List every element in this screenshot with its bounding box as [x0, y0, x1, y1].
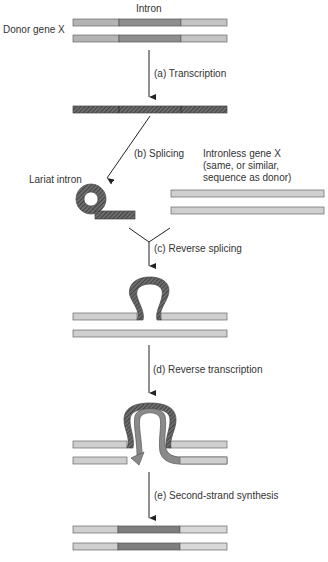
step-b-label: (b) Splicing	[134, 148, 184, 160]
intronless-gene-dna	[171, 190, 324, 214]
donor-gene-dna	[73, 19, 227, 42]
intron-label: Intron	[136, 3, 162, 15]
step-c-label: (c) Reverse splicing	[154, 243, 242, 255]
step-a-label: (a) Transcription	[154, 68, 226, 80]
donor-gene-label: Donor gene X	[3, 24, 65, 36]
step-e-label: (e) Second-strand synthesis	[154, 490, 279, 502]
step-d-label: (d) Reverse transcription	[153, 364, 262, 376]
dna-with-inserted-rna	[73, 277, 227, 337]
intronless-gene-label-3: sequence as donor)	[203, 172, 291, 184]
intronless-gene-label-1: Intronless gene X	[203, 148, 281, 160]
lariat-intron-label: Lariat intron	[29, 174, 82, 186]
reverse-transcription-intermediate	[73, 403, 227, 465]
final-gene-with-intron	[73, 526, 227, 550]
intronless-gene-label-2: (same, or similar,	[203, 160, 279, 172]
lariat-intron	[76, 184, 135, 219]
rna-transcript	[73, 106, 227, 113]
arrow-splicing	[107, 116, 150, 178]
retrotransposition-diagram	[0, 0, 328, 562]
